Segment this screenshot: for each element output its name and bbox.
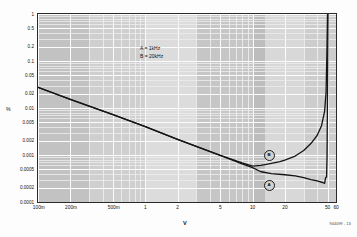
x-tick-label: 60: [333, 205, 338, 210]
x-tick-label: 500m: [108, 205, 120, 210]
gridline-vertical: [336, 14, 337, 202]
x-tick-label: 50: [325, 205, 330, 210]
x-tick-label: 10: [250, 205, 255, 210]
x-tick-label: 1: [144, 205, 147, 210]
gridline-horizontal: [38, 202, 336, 203]
x-tick-label: 2: [176, 205, 179, 210]
y-tick-label: 0.002: [0, 138, 34, 143]
y-tick-label: 0.001: [0, 153, 34, 158]
y-tick-label: 0.5: [0, 26, 34, 31]
y-tick-label: 0.0001: [0, 200, 34, 205]
x-tick-label: 200m: [65, 205, 77, 210]
data-curves: [38, 14, 337, 203]
y-tick-label: 0.05: [0, 73, 34, 78]
curve-marker-a: A: [264, 180, 275, 191]
y-tick-label: 0.005: [0, 120, 34, 125]
x-axis-title: V: [183, 220, 187, 226]
part-code-label: 944099 - 13: [330, 222, 351, 226]
y-tick-label: 1: [0, 12, 34, 17]
legend-entry-a: A = 1kHz: [140, 44, 163, 52]
x-tick-label: 20: [282, 205, 287, 210]
x-tick-label: 100m: [33, 205, 45, 210]
legend: A = 1kHz B = 20kHz: [140, 44, 163, 60]
y-tick-label: 0.02: [0, 91, 34, 96]
curve-marker-b: B: [264, 150, 275, 161]
y-tick-label: 0.0005: [0, 167, 34, 172]
y-tick-label: 0.2: [0, 44, 34, 49]
plot-area: [37, 13, 337, 203]
y-tick-label: 0.1: [0, 59, 34, 64]
chart-figure: 10.50.20.10.050.020.010.0050.0020.0010.0…: [0, 0, 357, 237]
y-tick-label: 0.0002: [0, 185, 34, 190]
y-axis-title: %: [6, 106, 11, 112]
curve-b: [38, 14, 328, 166]
legend-entry-b: B = 20kHz: [140, 52, 163, 60]
curve-a: [38, 14, 328, 183]
x-tick-label: 5: [219, 205, 222, 210]
